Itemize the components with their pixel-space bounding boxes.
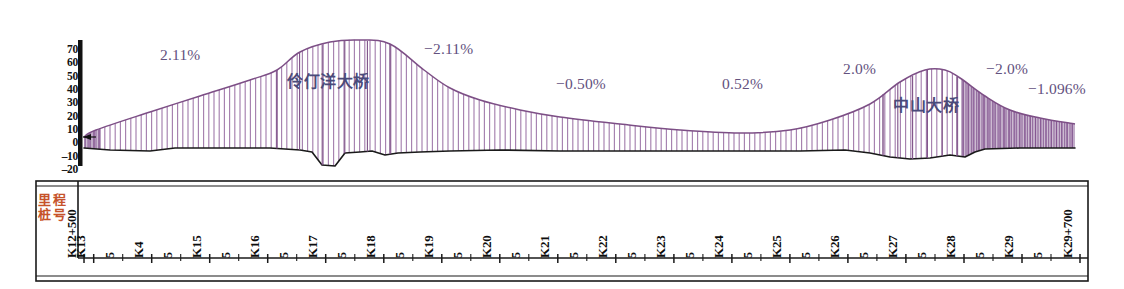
station-label-minor: 5 (1031, 252, 1046, 258)
station-label-minor: 5 (103, 252, 118, 258)
y-axis-tick: –10 (44, 151, 78, 162)
y-axis-tick: 10 (44, 124, 78, 135)
y-axis-bar (78, 40, 83, 166)
station-label-major: K15 (189, 235, 205, 258)
station-label-minor: 5 (973, 252, 988, 258)
station-label-minor: 5 (915, 252, 930, 258)
station-label-minor: 5 (509, 252, 524, 258)
station-label-major: K23 (653, 235, 669, 258)
station-label-minor: 5 (567, 252, 582, 258)
station-label-minor: 5 (161, 252, 176, 258)
station-label-minor: 5 (857, 252, 872, 258)
station-label-major: K22 (595, 235, 611, 258)
y-axis-tick: 40 (44, 84, 78, 95)
station-label-major: K20 (479, 235, 495, 258)
station-label-minor: 5 (741, 252, 756, 258)
station-label-major: K16 (247, 235, 263, 258)
mileage-caption-char: 号 (52, 207, 67, 222)
station-label-major: K27 (885, 235, 901, 258)
y-axis-tick: 20 (44, 111, 78, 122)
station-label-major: K25 (769, 235, 785, 258)
mileage-caption-char: 里 (37, 192, 52, 207)
gradient-label: 0.52% (722, 75, 763, 93)
y-axis-tick: 70 (44, 44, 78, 55)
longitudinal-profile-drawing: 706050403020100–10–20 2.11%−2.11%−0.50%0… (0, 0, 1124, 289)
station-label-major: K18 (363, 235, 379, 258)
station-label-major: K21 (537, 235, 553, 258)
y-axis-tick-labels: 706050403020100–10–20 (44, 44, 78, 164)
bridge-name-label: 中山大桥 (893, 92, 959, 116)
y-axis-tick: 50 (44, 71, 78, 82)
gradient-label: 2.11% (160, 46, 200, 64)
station-label-major: K26 (827, 235, 843, 258)
mileage-caption-char: 程 (52, 192, 67, 207)
station-label-major: K17 (305, 235, 321, 258)
station-label-minor: 5 (393, 252, 408, 258)
gradient-label: −2.11% (424, 40, 473, 58)
station-label-minor: 5 (625, 252, 640, 258)
gradient-label: −0.50% (556, 75, 606, 93)
station-label-major: K29+700 (1060, 209, 1076, 258)
bridge-name-label: 伶仃洋大桥 (287, 68, 370, 92)
mileage-stake-caption: 里程桩号 (37, 192, 77, 242)
station-label-major: K28 (943, 235, 959, 258)
y-axis-tick: 60 (44, 57, 78, 68)
station-label-major: K19 (421, 235, 437, 258)
y-axis-tick: –20 (44, 164, 78, 175)
station-label-minor: 5 (277, 252, 292, 258)
y-axis-tick: 0 (44, 137, 78, 148)
station-label-minor: 5 (219, 252, 234, 258)
gradient-label: −1.096% (1028, 80, 1086, 98)
station-label-major: K4 (131, 242, 147, 258)
gradient-label: 2.0% (843, 60, 876, 78)
mileage-caption-char: 桩 (37, 207, 52, 222)
station-label-major: K24 (711, 235, 727, 258)
gradient-label: −2.0% (986, 60, 1028, 78)
station-label-minor: 5 (335, 252, 350, 258)
station-label-major: K29 (1001, 235, 1017, 258)
station-label-minor: 5 (451, 252, 466, 258)
station-label-minor: 5 (799, 252, 814, 258)
y-axis-tick: 30 (44, 97, 78, 108)
station-label-strip: K12+500K135K45K155K165K175K185K195K205K2… (0, 180, 1124, 289)
station-label-minor: 5 (683, 252, 698, 258)
